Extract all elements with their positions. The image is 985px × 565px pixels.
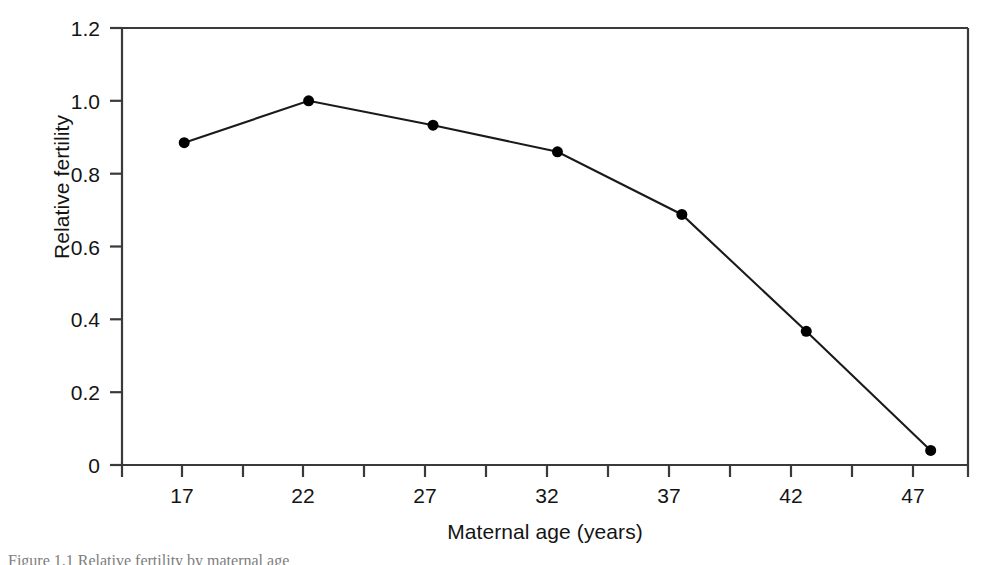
y-tick-label: 0 <box>88 454 100 477</box>
x-axis-tick-labels: 17 22 27 32 37 42 47 <box>170 484 924 507</box>
y-tick-label: 1.0 <box>71 90 100 113</box>
data-point-marker <box>925 445 936 456</box>
y-axis-title: Relative fertility <box>50 37 74 337</box>
data-point-marker <box>801 326 812 337</box>
x-tick-label: 27 <box>413 484 436 507</box>
y-axis-tick-labels: 0 0.2 0.4 0.6 0.8 1.0 1.2 <box>71 17 101 477</box>
x-tick-label: 32 <box>535 484 558 507</box>
y-tick-label: 1.2 <box>71 17 100 40</box>
data-point-marker <box>179 137 190 148</box>
y-tick-label: 0.8 <box>71 163 100 186</box>
y-axis-ticks <box>110 28 122 465</box>
y-tick-label: 0.2 <box>71 381 100 404</box>
x-tick-label: 47 <box>901 484 924 507</box>
x-tick-label: 37 <box>657 484 680 507</box>
y-tick-label: 0.6 <box>71 236 100 259</box>
x-tick-label: 42 <box>779 484 802 507</box>
data-point-marker <box>552 146 563 157</box>
x-tick-label: 17 <box>170 484 193 507</box>
x-axis-title: Maternal age (years) <box>122 520 968 544</box>
y-tick-label: 0.4 <box>71 308 101 331</box>
plot-frame <box>122 28 968 465</box>
figure-caption: Figure 1.1 Relative fertility by materna… <box>8 551 978 565</box>
x-axis-ticks <box>122 465 968 477</box>
fertility-line-chart: 0 0.2 0.4 0.6 0.8 1.0 1.2 <box>0 0 985 565</box>
data-point-marker <box>676 209 687 220</box>
x-tick-label: 22 <box>291 484 314 507</box>
data-series-markers <box>179 95 936 456</box>
data-point-marker <box>428 120 439 131</box>
data-point-marker <box>303 95 314 106</box>
figure-container: 0 0.2 0.4 0.6 0.8 1.0 1.2 <box>0 0 985 565</box>
